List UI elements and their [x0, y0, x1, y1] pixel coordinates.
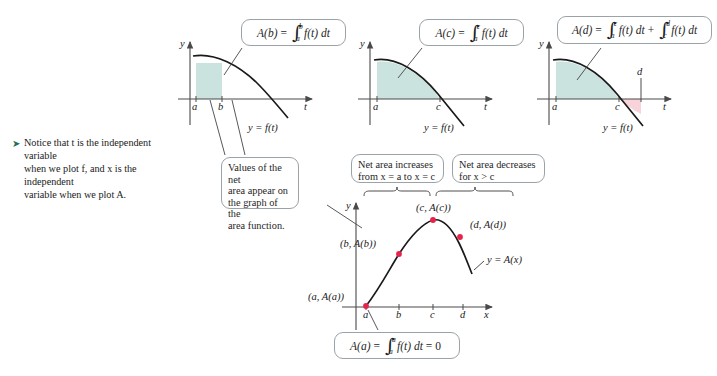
integral-upper-limit: c — [614, 19, 617, 28]
panel-d-tick-label-a: a — [552, 101, 557, 112]
callout-a-of-b-integrand: f(t) dt — [304, 27, 330, 39]
callout-a-of-c-integrand: f(t) dt — [482, 27, 508, 39]
integral-icon: ∫ b a — [292, 25, 303, 41]
area-chart-curve-label-leader — [474, 261, 484, 270]
area-chart-point-d — [457, 234, 463, 240]
increases-line-2: from x = a to x = c — [358, 171, 437, 183]
callout-a-of-b-fn: A(b) — [257, 27, 277, 39]
callout-a-of-c-fn: A(c) — [435, 27, 455, 39]
integral-lower-limit: a — [474, 34, 478, 43]
point-label-d: (d, A(d)) — [470, 219, 506, 230]
area-chart-x-label: x — [484, 309, 489, 320]
panel-c-x-label: t — [484, 101, 487, 112]
callout-a-of-c: A(c) = ∫ c a f(t) dt — [419, 19, 524, 46]
increases-line-1: Net area increases — [358, 159, 437, 171]
integral-icon: ∫ d c — [659, 22, 670, 38]
area-chart-point-b — [396, 251, 402, 257]
integral-lower-limit: a — [611, 31, 615, 40]
callout-a-of-d-integrand-2: f(t) dt — [671, 24, 697, 36]
panel-b-shaded-area — [196, 63, 222, 99]
integral-lower-limit: a — [296, 34, 300, 43]
integral-icon: ∫ c a — [607, 22, 618, 38]
panel-b-tick-label-b: b — [218, 101, 223, 112]
values-note-line-1: Values of the net — [228, 162, 292, 185]
integral-icon: ∫ c a — [470, 25, 481, 41]
area-chart-tick-label-a: a — [363, 309, 368, 320]
panel-d-tick-label-c: c — [615, 101, 620, 112]
callout-a-of-a-fn: A(a) — [350, 340, 370, 352]
callout-values-note: Values of the net area appear on the gra… — [221, 157, 299, 209]
callout-a-of-d: A(d) = ∫ c a f(t) dt + ∫ d c f(t) dt — [557, 16, 712, 44]
panel-d-tick-label-d: d — [637, 66, 642, 77]
panel-b-x-label: t — [304, 101, 307, 112]
area-chart-point-c — [430, 217, 436, 223]
values-note-line-2: area appear on — [228, 185, 292, 197]
point-label-c: (c, A(c)) — [416, 202, 451, 213]
area-chart-tick-label-d: d — [460, 309, 465, 320]
integral-upper-limit: c — [477, 22, 480, 31]
integral-lower-limit: a — [389, 347, 393, 356]
panel-d-x-label: t — [663, 101, 666, 112]
brace-increases — [364, 187, 430, 196]
panel-b-tick-label-a: a — [192, 101, 197, 112]
decreases-line-2: for x > c — [459, 171, 538, 183]
area-chart-tick-label-b: b — [396, 309, 401, 320]
integral-lower-limit: c — [663, 31, 666, 40]
bullet-arrow-icon: ➤ — [12, 137, 20, 150]
panel-c-tick-label-a: a — [373, 101, 378, 112]
panel-d-y-label: y — [539, 38, 544, 49]
callout-a-of-b: A(b) = ∫ b a f(t) dt — [241, 19, 346, 46]
callout-a-of-a-tail: = 0 — [426, 340, 441, 352]
decreases-line-1: Net area decreases — [459, 159, 538, 171]
area-chart-y-label: y — [346, 200, 351, 211]
callout-a-of-d-eq: = — [595, 24, 602, 36]
point-label-a: (a, A(a)) — [308, 291, 344, 302]
area-chart-tick-label-c: c — [430, 309, 435, 320]
callout-a-of-d-plus: + — [648, 24, 655, 36]
panel-d-curve-label: y = f(t) — [603, 122, 633, 133]
panel-b-y-label: y — [180, 38, 185, 49]
integral-icon: ∫ a a — [385, 338, 396, 354]
integral-upper-limit: b — [299, 22, 303, 31]
panel-c-graph — [358, 42, 492, 126]
brace-decreases — [436, 187, 513, 196]
panel-c-curve-label: y = f(t) — [424, 122, 454, 133]
zero-callout-leader — [368, 310, 378, 330]
panel-c-y-label: y — [360, 38, 365, 49]
callout-a-of-a-integrand: f(t) dt — [397, 340, 423, 352]
callout-a-of-a-zero: A(a) = ∫ a a f(t) dt = 0 — [334, 332, 460, 359]
panel-b-graph — [178, 42, 312, 125]
callout-net-area-decreases: Net area decreases for x > c — [452, 154, 545, 183]
values-note-line-4: area function. — [228, 220, 292, 232]
values-note-line-3: the graph of the — [228, 197, 292, 220]
independent-variable-note: ➤ Notice that t is the independent varia… — [24, 136, 184, 201]
area-chart-curve — [366, 220, 472, 306]
panel-b-curve-label: y = f(t) — [248, 122, 278, 133]
callout-a-of-d-integrand-1: f(t) dt — [619, 24, 645, 36]
note-line-2: when we plot f, and x is the independent — [24, 162, 184, 188]
integral-upper-limit: d — [666, 19, 670, 28]
note-line-1: Notice that t is the independent variabl… — [24, 136, 184, 162]
values-note-leader-up2 — [232, 100, 245, 155]
callout-a-of-c-eq: = — [458, 27, 465, 39]
panel-c-tick-label-c: c — [436, 101, 441, 112]
callout-a-of-d-fn: A(d) — [572, 24, 592, 36]
values-note-leader-down — [327, 205, 362, 228]
callout-a-of-a-eq: = — [373, 340, 380, 352]
panel-d-graph — [537, 42, 671, 126]
area-chart-curve-label: y = A(x) — [487, 254, 522, 265]
callout-net-area-increases: Net area increases from x = a to x = c — [351, 154, 444, 183]
note-line-3: variable when we plot A. — [24, 188, 184, 201]
point-label-b: (b, A(b)) — [340, 238, 376, 249]
integral-upper-limit: a — [392, 335, 396, 344]
callout-a-of-b-eq: = — [281, 27, 288, 39]
